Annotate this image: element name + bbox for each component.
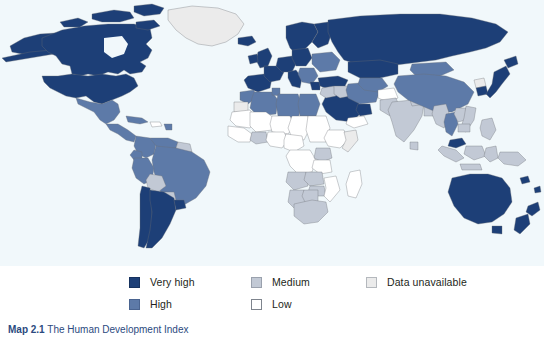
country-libya — [276, 94, 302, 118]
legend-item-high[interactable]: High — [129, 298, 251, 310]
legend-swatch-data-unavailable — [366, 277, 377, 288]
country-hispaniola — [150, 122, 162, 127]
legend-swatch-medium — [251, 277, 262, 288]
country-indonesia-java — [460, 164, 482, 170]
country-tasmania — [492, 226, 502, 234]
world-map-panel — [0, 0, 544, 266]
legend-swatch-low — [251, 299, 262, 310]
map-legend: Very high Medium Data unavailable High L… — [0, 266, 544, 320]
caption-text: The Human Development Index — [47, 324, 188, 335]
legend-swatch-very-high — [129, 277, 140, 288]
legend-label-low: Low — [272, 298, 292, 310]
figure-root: Very high Medium Data unavailable High L… — [0, 0, 544, 338]
legend-item-medium[interactable]: Medium — [251, 276, 366, 288]
legend-swatch-high — [129, 299, 140, 310]
legend-label-high: High — [150, 298, 172, 310]
legend-label-data-unavailable: Data unavailable — [387, 276, 467, 288]
world-choropleth-map — [0, 0, 544, 266]
legend-item-data-unavailable[interactable]: Data unavailable — [366, 276, 526, 288]
country-sri-lanka — [410, 142, 418, 150]
caption-number: Map 2.1 — [8, 324, 45, 335]
country-ireland — [248, 54, 258, 64]
legend-row-1: Very high Medium Data unavailable — [129, 276, 526, 288]
country-cambodia — [458, 124, 470, 132]
country-south-korea — [476, 86, 488, 96]
legend-item-low[interactable]: Low — [251, 298, 366, 310]
legend-item-very-high[interactable]: Very high — [129, 276, 251, 288]
country-egypt — [298, 94, 320, 116]
figure-caption: Map 2.1 The Human Development Index — [8, 324, 538, 335]
legend-label-medium: Medium — [272, 276, 310, 288]
legend-row-2: High Low — [129, 298, 526, 310]
country-uruguay — [174, 200, 186, 210]
legend-label-very-high: Very high — [150, 276, 195, 288]
country-kazakhstan — [348, 60, 398, 78]
